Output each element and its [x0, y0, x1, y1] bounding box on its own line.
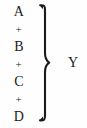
plus-operator-1: + — [6, 22, 32, 37]
term-a: A — [6, 4, 32, 19]
result-label: Y — [62, 55, 84, 71]
plus-operator-2: + — [6, 57, 32, 72]
right-curly-brace-icon — [36, 3, 52, 125]
terms-column: A + B + C + D — [6, 4, 32, 124]
brace-grouping-figure: A + B + C + D Y — [0, 0, 87, 128]
term-d: D — [6, 109, 32, 124]
plus-operator-3: + — [6, 92, 32, 107]
term-b: B — [6, 39, 32, 54]
term-c: C — [6, 74, 32, 89]
